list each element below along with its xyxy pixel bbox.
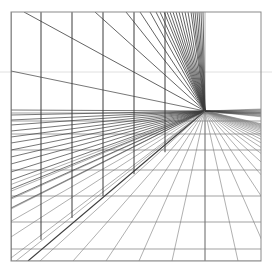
wall-ray (11, 110, 205, 111)
wall-ray (11, 111, 205, 172)
perspective-drawing (0, 0, 272, 270)
floor-ray (205, 111, 272, 270)
floor-ray (205, 111, 272, 270)
floor-ray (205, 111, 272, 270)
wall-grid (11, 12, 261, 261)
floor-ray (205, 111, 272, 270)
floor-ray (205, 111, 272, 270)
floor-ray (205, 111, 272, 270)
floor-ray (205, 111, 272, 270)
floor-ray (205, 111, 272, 270)
floor-ray (205, 111, 272, 270)
floor-ray (205, 111, 272, 270)
floor-ray (205, 111, 272, 270)
floor-ray (205, 111, 272, 270)
floor-ray (205, 111, 272, 270)
floor-ray (205, 111, 272, 270)
floor-ray (205, 111, 272, 270)
floor-ray (205, 111, 272, 270)
floor-ray (205, 111, 272, 270)
floor-ray (205, 111, 240, 270)
floor-ray (205, 111, 272, 270)
wall-ray (11, 71, 205, 111)
floor-ray (205, 111, 272, 270)
